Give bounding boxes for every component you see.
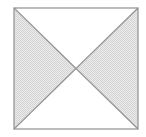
square-with-diagonals-figure — [0, 0, 146, 137]
